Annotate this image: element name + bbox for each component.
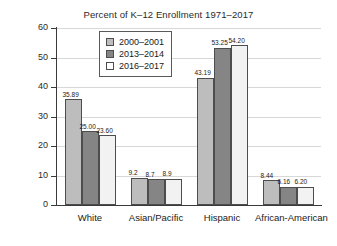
x-axis-category-label: Asian/Pacific bbox=[123, 212, 189, 223]
legend: 2000–2001 2013–2014 2016–2017 bbox=[99, 31, 172, 77]
legend-label: 2013–2014 bbox=[119, 49, 164, 59]
legend-item: 2013–2014 bbox=[106, 48, 164, 60]
bar-value-label: 35.89 bbox=[63, 92, 79, 99]
bar-group: 8.446.166.20 bbox=[263, 28, 314, 205]
legend-item: 2000–2001 bbox=[106, 36, 164, 48]
y-axis-tick-label: 60 bbox=[8, 23, 48, 32]
chart-title: Percent of K–12 Enrollment 1971–2017 bbox=[0, 9, 337, 20]
legend-label: 2000–2001 bbox=[119, 37, 164, 47]
legend-swatch-icon bbox=[106, 50, 114, 58]
bar-value-label: 53.25 bbox=[212, 40, 228, 47]
bar-value-label: 6.20 bbox=[295, 179, 308, 186]
plot-area: 35.8925.0023.609.28.78.943.1953.2554.208… bbox=[57, 28, 321, 205]
bar-value-label: 25.00 bbox=[80, 124, 96, 131]
y-axis-tick-label: 10 bbox=[8, 171, 48, 180]
y-axis-tick-label: 40 bbox=[8, 82, 48, 91]
bar-value-label: 9.2 bbox=[129, 170, 138, 177]
bar bbox=[148, 179, 165, 205]
y-axis-tick-mark bbox=[51, 146, 56, 147]
bar-value-label: 43.19 bbox=[195, 70, 211, 77]
bar-chart: Percent of K–12 Enrollment 1971–2017 Per… bbox=[0, 0, 337, 246]
y-axis-tick-mark bbox=[51, 87, 56, 88]
y-axis-tick-label: 20 bbox=[8, 141, 48, 150]
bar-value-label: 6.16 bbox=[278, 179, 291, 186]
y-axis-tick-label: 30 bbox=[8, 112, 48, 121]
bar-value-label: 8.44 bbox=[261, 173, 274, 180]
bar bbox=[280, 187, 297, 205]
x-axis-category-label: Hispanic bbox=[189, 212, 255, 223]
y-axis-tick-mark bbox=[51, 58, 56, 59]
bar-value-label: 54.20 bbox=[229, 38, 245, 45]
bar-value-label: 8.9 bbox=[163, 171, 172, 178]
x-axis-category-label: African-American bbox=[255, 212, 321, 223]
bar bbox=[231, 45, 248, 205]
bar bbox=[214, 48, 231, 205]
bar bbox=[99, 135, 116, 205]
bar-value-label: 23.60 bbox=[97, 128, 113, 135]
y-axis-tick-label: 0 bbox=[8, 200, 48, 209]
y-axis-tick-label: 50 bbox=[8, 53, 48, 62]
bar bbox=[197, 78, 214, 205]
bar-value-label: 8.7 bbox=[146, 172, 155, 179]
legend-label: 2016–2017 bbox=[119, 61, 164, 71]
y-axis-tick-mark bbox=[51, 117, 56, 118]
bar bbox=[165, 179, 182, 205]
bar bbox=[82, 131, 99, 205]
bar-group: 43.1953.2554.20 bbox=[197, 28, 248, 205]
bar bbox=[131, 178, 148, 205]
legend-swatch-icon bbox=[106, 38, 114, 46]
y-axis-tick-mark bbox=[51, 176, 56, 177]
y-axis-tick-mark bbox=[51, 28, 56, 29]
y-axis-tick-mark bbox=[51, 205, 56, 206]
legend-item: 2016–2017 bbox=[106, 60, 164, 72]
bar bbox=[65, 99, 82, 205]
x-axis-line bbox=[56, 205, 322, 206]
bar bbox=[297, 187, 314, 205]
legend-swatch-icon bbox=[106, 62, 114, 70]
x-axis-category-label: White bbox=[57, 212, 123, 223]
